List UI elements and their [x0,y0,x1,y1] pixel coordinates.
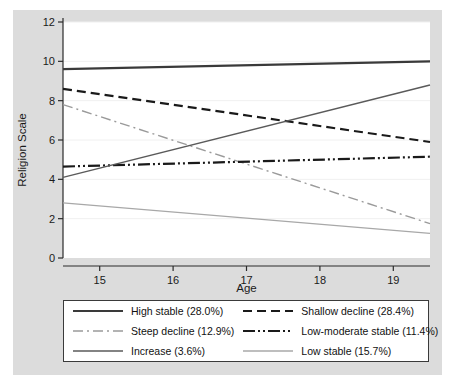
legend-item[interactable]: Low-moderate stable (11.4%) [234,325,438,337]
legend: High stable (28.0%)Shallow decline (28.4… [63,300,429,362]
legend-item-label: Increase (3.6%) [131,345,205,357]
chart-figure: 0246810121516171819 Religion Scale Age H… [0,0,458,391]
y-axis-tick-label: 0 [33,252,55,264]
legend-swatch-solid [242,346,294,356]
legend-item-label: Steep decline (12.9%) [131,325,234,337]
legend-swatch-dashdot [72,326,124,336]
legend-item[interactable]: Shallow decline (28.4%) [234,305,438,317]
legend-item[interactable]: Low stable (15.7%) [234,345,438,357]
y-axis-tick-label: 10 [33,55,55,67]
legend-swatch-dashdotdot [242,326,294,336]
legend-swatch-solid [72,346,124,356]
y-axis-title: Religion Scale [16,90,28,210]
y-axis-tick-label: 8 [33,95,55,107]
legend-item[interactable]: Steep decline (12.9%) [64,325,234,337]
legend-item[interactable]: Increase (3.6%) [64,345,234,357]
x-axis-title: Age [63,282,430,294]
legend-item-label: Low stable (15.7%) [301,345,391,357]
legend-grid: High stable (28.0%)Shallow decline (28.4… [64,301,428,361]
legend-item[interactable]: High stable (28.0%) [64,305,234,317]
y-axis-tick-label: 12 [33,16,55,28]
legend-item-label: Low-moderate stable (11.4%) [301,325,438,337]
y-axis-tick-label: 2 [33,213,55,225]
legend-item-label: Shallow decline (28.4%) [301,305,414,317]
legend-swatch-dashed [242,306,294,316]
legend-item-label: High stable (28.0%) [131,305,223,317]
legend-swatch-solid [72,306,124,316]
y-axis-tick-label: 6 [33,134,55,146]
y-axis-tick-label: 4 [33,173,55,185]
